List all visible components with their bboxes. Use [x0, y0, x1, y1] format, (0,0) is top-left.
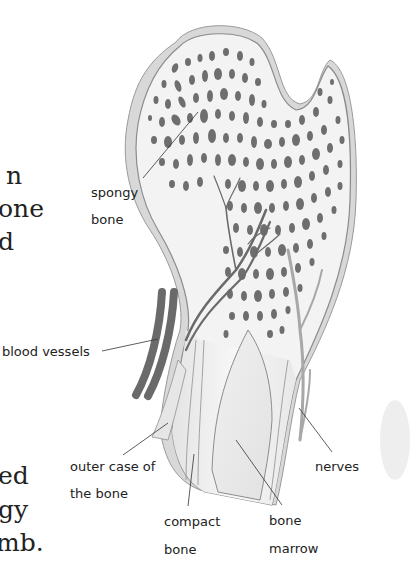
label-bone-marrow-line-1: bone	[269, 514, 301, 527]
label-nerves: nerves	[315, 460, 359, 473]
label-outer-case-line-1: outer case of	[70, 460, 155, 473]
label-compact-bone-line-1: compact	[164, 515, 220, 528]
label-outer-case-line-2: the bone	[70, 487, 128, 500]
label-spongy-bone-line-1: spongy	[91, 186, 138, 199]
label-bone-marrow-line-2: marrow	[269, 542, 318, 555]
label-spongy-bone-line-2: bone	[91, 213, 123, 226]
label-blood-vessels: blood vessels	[2, 345, 90, 358]
label-compact-bone-line-2: bone	[164, 543, 196, 556]
